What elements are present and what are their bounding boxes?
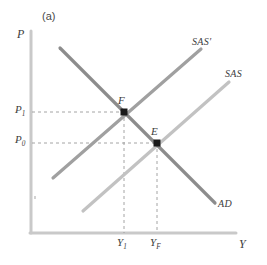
y-tick-label-p0: P0	[15, 134, 25, 148]
equilibrium-point-f	[121, 109, 128, 116]
x-axis-label: Y	[239, 238, 246, 250]
y-tick-p1-base: P	[15, 103, 22, 115]
curve-sas-label: SAS	[225, 69, 242, 79]
guide-lines-group	[32, 112, 157, 233]
y-tick-p1-subscript: 1	[22, 110, 26, 118]
equilibrium-point-e	[154, 140, 161, 147]
curve-sas-prime-label: SAS′	[192, 37, 212, 47]
y-tick-p0-base: P	[15, 133, 22, 145]
y-tick-label-p1: P1	[15, 104, 25, 118]
curves-group	[53, 48, 229, 211]
x-tick-yf-subscript: F	[156, 243, 160, 251]
y-tick-p0-subscript: 0	[22, 140, 26, 148]
axis-group	[30, 31, 236, 233]
equilibrium-point-e-label: E	[151, 126, 158, 137]
equilibrium-point-f-label: F	[118, 95, 125, 106]
x-tick-label-yf: YF	[150, 237, 161, 251]
diagram-canvas	[0, 0, 267, 265]
panel-letter-label: (a)	[42, 11, 55, 22]
curve-ad	[60, 48, 215, 203]
figure-container: (a) P Y P1 P0 Y1 YF F E SAS′ SAS AD	[0, 0, 267, 265]
x-tick-y1-subscript: 1	[123, 243, 127, 251]
y-axis-label: P	[17, 28, 24, 40]
x-tick-label-y1: Y1	[117, 237, 127, 251]
curve-ad-label: AD	[218, 199, 232, 209]
